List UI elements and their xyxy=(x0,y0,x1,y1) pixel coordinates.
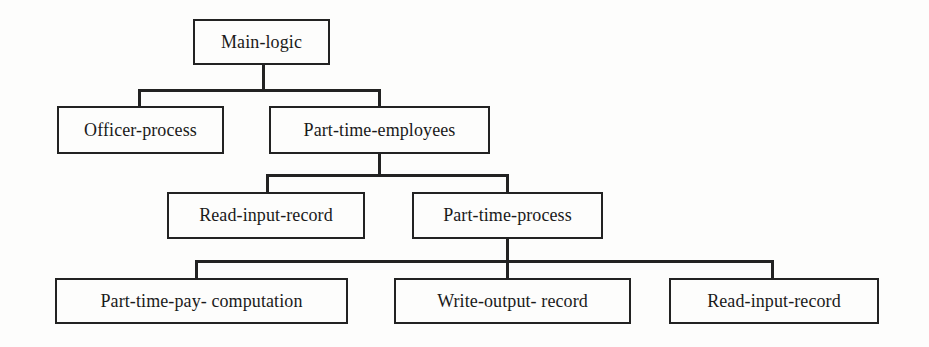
node-officer-process: Officer-process xyxy=(57,106,224,154)
connector-level2-bar xyxy=(266,174,509,177)
node-part-time-pay-computation: Part-time-pay- computation xyxy=(55,278,348,324)
connector-ptp-down xyxy=(506,238,509,279)
connector-level1-bar xyxy=(138,89,381,92)
node-main-logic: Main-logic xyxy=(193,19,330,65)
node-part-time-process: Part-time-process xyxy=(412,192,603,239)
node-label: Main-logic xyxy=(221,32,302,53)
node-label: Read-input-record xyxy=(707,291,841,312)
hierarchy-chart: Main-logic Officer-process Part-time-emp… xyxy=(0,0,929,347)
connector-main-down xyxy=(262,64,265,91)
node-label: Part-time-process xyxy=(443,205,572,226)
node-label: Part-time-employees xyxy=(304,120,456,141)
connector-to-part-time-process xyxy=(506,174,509,193)
node-read-input-record-2: Read-input-record xyxy=(669,278,879,324)
node-write-output-record: Write-output- record xyxy=(394,278,631,324)
connector-to-officer xyxy=(138,89,141,107)
node-label: Part-time-pay- computation xyxy=(100,291,302,312)
node-read-input-record-1: Read-input-record xyxy=(167,192,365,239)
connector-to-read-input-2 xyxy=(771,260,774,279)
connector-to-read-input-1 xyxy=(266,174,269,193)
node-label: Write-output- record xyxy=(437,291,588,312)
node-label: Officer-process xyxy=(84,120,197,141)
node-part-time-employees: Part-time-employees xyxy=(269,106,490,154)
connector-to-pay-computation xyxy=(195,260,198,279)
connector-level3-bar xyxy=(195,260,774,263)
node-label: Read-input-record xyxy=(199,205,333,226)
connector-pte-down xyxy=(378,153,381,176)
connector-to-part-time-employees xyxy=(378,89,381,107)
